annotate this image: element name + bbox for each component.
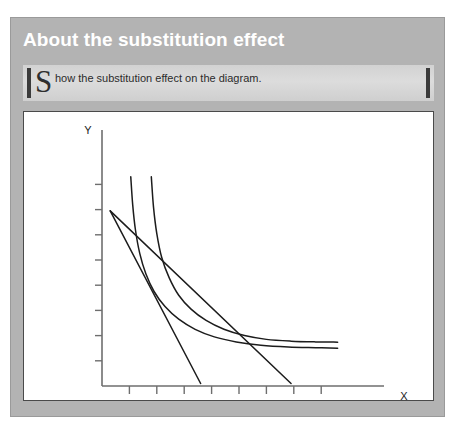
budget-line-steep	[110, 211, 200, 384]
indifference-curve-2	[151, 177, 337, 342]
substitution-effect-chart: Y X	[24, 112, 433, 400]
instruction-text: how the substitution effect on the diagr…	[55, 72, 261, 84]
x-axis-ticks	[129, 386, 321, 394]
exercise-panel: About the substitution effect S how the …	[10, 17, 445, 417]
instruction-callout: S how the substitution effect on the dia…	[23, 65, 434, 101]
page-title: About the substitution effect	[23, 29, 285, 51]
instruction-dropcap: S	[35, 66, 52, 97]
screenshot-root: About the substitution effect S how the …	[0, 0, 455, 433]
callout-left-rule-icon	[27, 68, 31, 98]
y-axis-ticks	[95, 184, 102, 360]
x-axis-label: X	[400, 390, 408, 400]
diagram-canvas[interactable]: Y X	[23, 111, 434, 401]
indifference-curve-1	[131, 177, 338, 348]
y-axis-label: Y	[84, 124, 92, 136]
chart-axes	[102, 130, 384, 386]
chart-series-layer	[110, 177, 337, 384]
budget-line-flat	[110, 211, 291, 384]
callout-right-rule-icon	[426, 68, 430, 98]
